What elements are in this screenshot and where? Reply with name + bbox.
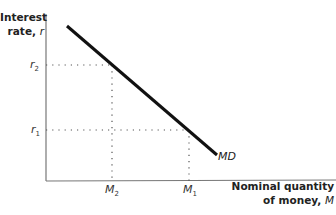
y-axis-label: Interest rate, r	[0, 10, 44, 38]
x-axis-label: Nominal quantity of money, M	[232, 179, 334, 207]
tick-r2-sub: 2	[35, 65, 39, 73]
tick-m1: M1	[183, 183, 197, 198]
y-axis-label-line2: rate, r	[0, 24, 44, 38]
x-axis-var: M	[325, 194, 334, 206]
tick-r1: r1	[31, 123, 40, 138]
md-curve	[67, 26, 217, 155]
x-axis-label-line2: of money, M	[232, 193, 334, 207]
x-axis-label-text: of money,	[263, 194, 321, 206]
y-axis-label-line1: Interest	[0, 10, 44, 24]
tick-m1-sub: 1	[193, 190, 197, 198]
tick-m2-sub: 2	[115, 190, 119, 198]
y-axis-label-text: rate,	[8, 25, 36, 37]
md-curve-label: MD	[218, 150, 236, 163]
tick-m1-var: M	[183, 183, 193, 196]
tick-r1-sub: 1	[36, 130, 40, 138]
y-axis-var: r	[40, 25, 44, 37]
tick-m2: M2	[105, 183, 119, 198]
x-axis-label-line1: Nominal quantity	[232, 179, 334, 193]
tick-r2: r2	[30, 58, 39, 73]
tick-m2-var: M	[105, 183, 115, 196]
